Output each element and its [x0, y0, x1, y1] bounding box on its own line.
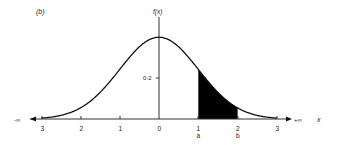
x-right-infinity-label: +∞ [294, 117, 302, 123]
x-tick-label: 3 [41, 125, 45, 132]
upper-bound-label: b [236, 132, 240, 139]
panel-label: (b) [36, 8, 45, 16]
x-tick-label: 3 [276, 125, 280, 132]
y-tick-label: 0·2 [143, 75, 152, 81]
x-tick-label: 1 [119, 125, 123, 132]
x-tick-label: 2 [236, 125, 240, 132]
x-axis-label: x [316, 116, 321, 123]
x-left-infinity-label: -∞ [14, 117, 20, 123]
x-tick-label: 2 [80, 125, 84, 132]
normal-distribution-chart: (b) -∞ +∞ x f(x) 0·2 3 2 1 0 1 2 3 a b [0, 0, 338, 145]
left-arrow-icon [30, 117, 36, 122]
x-tick-label: 0 [158, 125, 162, 132]
lower-bound-label: a [197, 132, 201, 139]
x-tick-label: 1 [197, 125, 201, 132]
y-axis-label: f(x) [153, 8, 162, 16]
right-arrow-icon [286, 117, 292, 122]
x-ticks: 3 2 1 0 1 2 3 [41, 116, 280, 132]
